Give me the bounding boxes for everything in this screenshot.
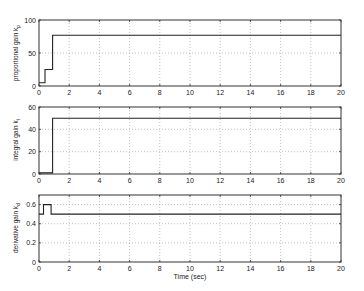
integral-gain-plot: 020406002468101214161820 [28,104,345,185]
x-tick-label: 14 [247,265,255,272]
plot2-y-axis-label: integral gain ki [12,119,21,161]
y-tick-label: 0.4 [26,220,36,227]
x-tick-label: 18 [307,89,315,96]
y-tick-label: 0 [32,171,36,178]
x-tick-label: 10 [186,89,194,96]
y-tick-label: 40 [28,126,36,133]
y-tick-label: 0.2 [26,239,36,246]
x-tick-label: 20 [337,265,345,272]
x-tick-label: 18 [307,265,315,272]
x-tick-label: 2 [67,177,71,184]
x-tick-label: 20 [337,89,345,96]
gain-schedule-figure: 05010002468101214161820 0204060024681012… [0,0,364,291]
y-tick-label: 0 [32,259,36,266]
x-tick-label: 8 [158,265,162,272]
y-tick-label: 0 [32,83,36,90]
x-tick-label: 0 [37,177,41,184]
y-tick-label: 60 [28,104,36,111]
proportional-gain-plot: 05010002468101214161820 [24,17,345,97]
x-tick-label: 6 [128,89,132,96]
series-line-kd [39,205,341,215]
x-tick-label: 0 [37,265,41,272]
x-tick-label: 12 [216,89,224,96]
series-line-kp [39,35,341,82]
x-tick-label: 6 [128,265,132,272]
x-tick-label: 14 [247,89,255,96]
y-tick-label: 20 [28,148,36,155]
x-tick-label: 16 [277,89,285,96]
plot3-y-axis-label: derivative gain kd [12,203,21,253]
x-tick-label: 14 [247,177,255,184]
x-tick-label: 16 [277,265,285,272]
x-tick-label: 6 [128,177,132,184]
x-tick-label: 12 [216,265,224,272]
x-tick-label: 20 [337,177,345,184]
x-tick-label: 2 [67,89,71,96]
x-tick-label: 4 [97,177,101,184]
plot1-y-axis-label: proportional gain kp [12,25,21,81]
x-tick-label: 2 [67,265,71,272]
y-tick-label: 50 [28,50,36,57]
x-tick-label: 18 [307,177,315,184]
x-tick-label: 10 [186,265,194,272]
x-tick-label: 12 [216,177,224,184]
x-tick-label: 10 [186,177,194,184]
x-tick-label: 8 [158,89,162,96]
x-tick-label: 8 [158,177,162,184]
y-tick-label: 0.6 [26,201,36,208]
derivative-gain-plot: 00.20.40.602468101214161820 [26,195,345,272]
x-tick-label: 4 [97,265,101,272]
y-tick-label: 100 [24,17,36,24]
x-tick-label: 4 [97,89,101,96]
x-tick-label: 0 [37,89,41,96]
x-tick-label: 16 [277,177,285,184]
x-axis-label: Time (sec) [174,273,207,281]
